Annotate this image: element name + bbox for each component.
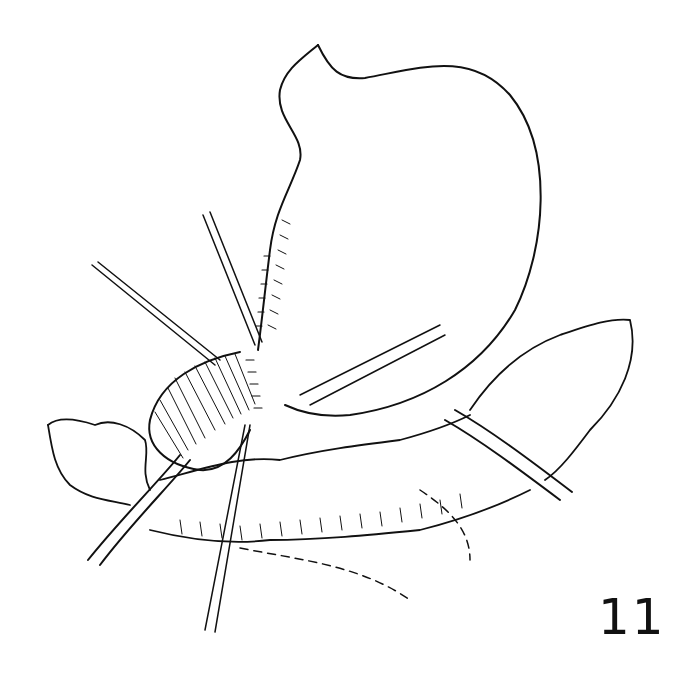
suture-threads (92, 212, 445, 632)
dashed-guide-line (240, 490, 470, 600)
surgical-illustration (0, 0, 699, 684)
figure-number-label: 11 (598, 588, 666, 646)
stomach (256, 45, 541, 416)
retractors (88, 410, 572, 565)
bowel (48, 320, 633, 542)
